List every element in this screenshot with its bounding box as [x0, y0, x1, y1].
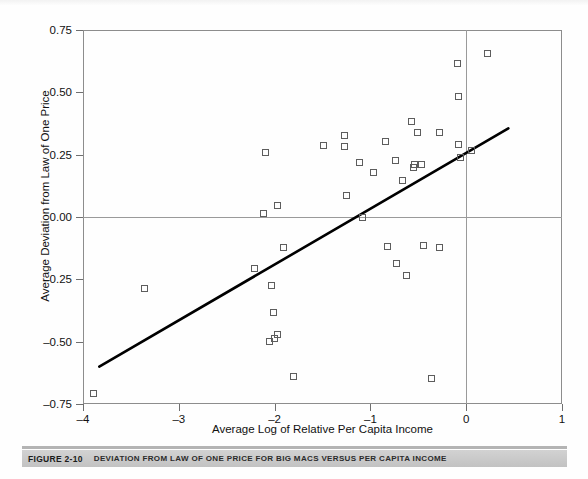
data-point: [359, 214, 366, 221]
data-point: [268, 282, 275, 289]
x-axis-tick: [370, 404, 371, 411]
data-point: [454, 60, 461, 67]
y-axis-tick-label: 0.00: [50, 211, 72, 223]
data-point: [251, 265, 258, 272]
y-axis-tick-label: –0.25: [43, 273, 72, 285]
y-axis-tick-label: 0.50: [50, 86, 72, 98]
data-point: [399, 177, 406, 184]
data-point: [392, 157, 399, 164]
data-point: [393, 260, 400, 267]
data-point: [262, 149, 269, 156]
data-point: [418, 161, 425, 168]
data-point: [274, 202, 281, 209]
data-point: [384, 243, 391, 250]
data-point: [455, 141, 462, 148]
data-point: [90, 390, 97, 397]
x-axis-tick: [83, 404, 84, 411]
y-axis-tick-label: 0.25: [50, 149, 72, 161]
data-point: [274, 331, 281, 338]
figure-container: Average Deviation from Law of One Price …: [0, 0, 588, 479]
data-point: [436, 129, 443, 136]
data-point: [457, 154, 464, 161]
scatter-plot: 0.750.500.250.00–0.25–0.50–0.75–4–3–2–10…: [83, 30, 562, 404]
y-axis-tick-label: 0.75: [50, 24, 72, 36]
figure-number: FIGURE 2-10: [28, 454, 83, 464]
x-axis-tick: [275, 404, 276, 411]
data-point: [414, 129, 421, 136]
data-point: [428, 375, 435, 382]
figure-caption-bar: FIGURE 2-10 DEVIATION FROM LAW OF ONE PR…: [22, 450, 567, 467]
data-point: [356, 159, 363, 166]
scan-edge-artifact: [0, 0, 588, 6]
y-axis-tick: [76, 92, 83, 93]
data-point: [290, 373, 297, 380]
data-point: [436, 244, 443, 251]
x-axis-tick: [562, 404, 563, 411]
data-point: [382, 138, 389, 145]
x-axis-tick: [466, 404, 467, 411]
data-point: [403, 272, 410, 279]
y-axis-tick: [76, 30, 83, 31]
data-point: [370, 169, 377, 176]
y-axis-tick: [76, 155, 83, 156]
y-axis-tick: [76, 217, 83, 218]
data-point: [341, 143, 348, 150]
x-axis-tick: [179, 404, 180, 411]
y-axis-tick-label: –0.50: [43, 336, 72, 348]
data-point: [420, 242, 427, 249]
y-axis-tick: [76, 342, 83, 343]
caption-rule: [22, 446, 567, 449]
data-point: [484, 50, 491, 57]
data-point: [468, 147, 475, 154]
data-point: [320, 142, 327, 149]
data-point: [280, 244, 287, 251]
data-point: [408, 118, 415, 125]
data-point: [141, 285, 148, 292]
figure-caption-text: DEVIATION FROM LAW OF ONE PRICE FOR BIG …: [94, 454, 447, 463]
data-point: [341, 132, 348, 139]
data-point: [343, 192, 350, 199]
y-axis-tick: [76, 279, 83, 280]
x-axis-label: Average Log of Relative Per Capita Incom…: [83, 423, 562, 435]
y-axis-tick: [76, 404, 83, 405]
data-point: [455, 93, 462, 100]
y-axis-tick-label: –0.75: [43, 398, 72, 410]
data-point: [270, 309, 277, 316]
data-point: [260, 210, 267, 217]
regression-line: [83, 30, 562, 404]
